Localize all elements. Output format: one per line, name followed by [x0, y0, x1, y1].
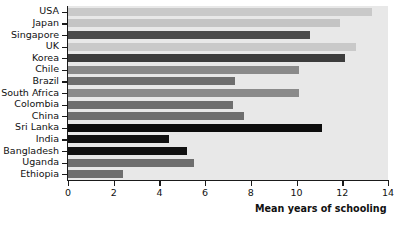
- x-axis-tick-label: 2: [102, 187, 126, 198]
- x-axis-tick-label: 12: [330, 187, 354, 198]
- bar: [68, 147, 187, 155]
- x-axis-tick: [251, 181, 252, 186]
- y-axis-tick: [62, 174, 67, 175]
- y-axis-label: China: [32, 111, 59, 121]
- y-axis-tick: [62, 163, 67, 164]
- y-axis-label: Uganda: [22, 157, 59, 167]
- y-axis-label: Bangladesh: [3, 146, 59, 156]
- x-axis-tick: [342, 181, 343, 186]
- y-axis-tick: [62, 128, 67, 129]
- x-axis-tick: [388, 181, 389, 186]
- y-axis-label: Brazil: [32, 76, 59, 86]
- y-axis-label: Japan: [33, 18, 60, 28]
- y-axis-tick: [62, 58, 67, 59]
- bar: [68, 135, 169, 143]
- bar: [68, 8, 372, 16]
- bar: [68, 170, 123, 178]
- y-axis-label: UK: [46, 41, 59, 51]
- bar: [68, 101, 233, 109]
- y-axis-label: India: [36, 134, 59, 144]
- x-axis-line: [67, 180, 389, 181]
- bar: [68, 89, 299, 97]
- x-axis-tick: [159, 181, 160, 186]
- bar: [68, 124, 322, 132]
- y-axis-label: USA: [39, 6, 59, 16]
- x-axis-tick-label: 8: [239, 187, 263, 198]
- x-axis-tick-label: 4: [147, 187, 171, 198]
- y-axis-tick: [62, 139, 67, 140]
- y-axis-tick: [62, 81, 67, 82]
- x-axis-tick-label: 14: [376, 187, 400, 198]
- x-axis-tick: [68, 181, 69, 186]
- y-axis-label: Korea: [32, 53, 59, 63]
- y-axis-tick: [62, 151, 67, 152]
- bar: [68, 43, 356, 51]
- x-axis-tick: [205, 181, 206, 186]
- bar: [68, 66, 299, 74]
- bar: [68, 54, 345, 62]
- bar: [68, 19, 340, 27]
- bar: [68, 159, 194, 167]
- x-axis-tick: [114, 181, 115, 186]
- bar: [68, 77, 235, 85]
- x-axis-tick-label: 6: [193, 187, 217, 198]
- y-axis-tick: [62, 47, 67, 48]
- y-axis-label: Colombia: [14, 99, 59, 109]
- y-axis-label: Chile: [35, 64, 59, 74]
- y-axis-tick: [62, 93, 67, 94]
- x-axis-tick: [297, 181, 298, 186]
- y-axis-tick: [62, 23, 67, 24]
- x-axis-tick-label: 10: [285, 187, 309, 198]
- y-axis-tick: [62, 116, 67, 117]
- y-axis-label: Ethiopia: [20, 169, 59, 179]
- y-axis-label: South Africa: [1, 88, 59, 98]
- x-axis-title: Mean years of schooling: [255, 203, 387, 214]
- y-axis-tick: [62, 12, 67, 13]
- bar: [68, 31, 310, 39]
- x-axis-tick-label: 0: [56, 187, 80, 198]
- y-axis-tick: [62, 105, 67, 106]
- y-axis-tick: [62, 35, 67, 36]
- bar-chart: USAJapanSingaporeUKKoreaChileBrazilSouth…: [0, 0, 408, 233]
- y-axis-label: Sri Lanka: [15, 122, 59, 132]
- y-axis-tick: [62, 70, 67, 71]
- y-axis-label: Singapore: [11, 30, 59, 40]
- bar: [68, 112, 244, 120]
